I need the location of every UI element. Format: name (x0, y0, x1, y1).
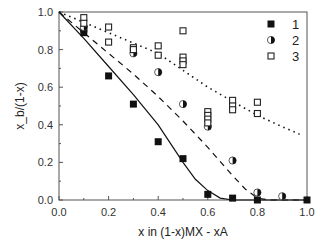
legend: 123 (267, 17, 299, 64)
marker-series-3 (130, 47, 136, 53)
marker-series-1 (180, 155, 187, 162)
marker-series-2 (155, 69, 162, 76)
marker-series-3 (106, 39, 112, 45)
marker-series-1 (229, 195, 236, 202)
scatter-chart: 0.00.20.40.60.81.00.00.20.40.60.81.0 123… (0, 0, 328, 249)
x-tick-label: 0.2 (101, 206, 116, 218)
marker-series-3 (254, 111, 260, 117)
x-tick-label: 0.8 (250, 206, 265, 218)
x-tick-label: 0.0 (51, 206, 66, 218)
legend-marker-3 (268, 53, 274, 59)
marker-series-2 (254, 189, 261, 196)
marker-series-3 (180, 28, 186, 34)
legend-marker-2 (267, 36, 274, 43)
marker-series-1 (130, 101, 137, 108)
marker-series-1 (155, 138, 162, 145)
marker-series-3 (230, 107, 236, 113)
legend-marker-1 (268, 21, 275, 28)
x-tick-label: 0.4 (151, 206, 166, 218)
y-tick-label: 0.8 (38, 44, 53, 56)
fit-line-3 (59, 12, 300, 134)
legend-label-2: 2 (292, 33, 299, 48)
marker-series-3 (106, 24, 112, 30)
marker-series-3 (180, 62, 186, 68)
y-axis-label: x_b/(1-x) (13, 82, 27, 129)
marker-series-1 (105, 72, 112, 79)
marker-series-3 (254, 99, 260, 105)
marker-series-3 (205, 120, 211, 126)
marker-series-1 (204, 191, 211, 198)
marker-series-2 (179, 101, 186, 108)
y-tick-label: 0.4 (38, 119, 53, 131)
marker-series-2 (229, 157, 236, 164)
y-tick-label: 0.2 (38, 156, 53, 168)
marker-series-3 (155, 52, 161, 58)
marker-series-3 (81, 20, 87, 26)
marker-series-3 (155, 43, 161, 49)
x-tick-label: 1.0 (299, 206, 314, 218)
marker-series-1 (304, 197, 311, 204)
y-tick-label: 1.0 (38, 6, 53, 18)
legend-label-1: 1 (292, 17, 299, 32)
legend-label-3: 3 (292, 49, 299, 64)
x-tick-label: 0.6 (200, 206, 215, 218)
y-tick-label: 0.0 (38, 194, 53, 206)
x-axis-label: x in (1-x)MX - xA (138, 225, 227, 239)
y-tick-label: 0.6 (38, 81, 53, 93)
marker-series-2 (279, 193, 286, 200)
marker-series-1 (254, 197, 261, 204)
data-markers (80, 15, 310, 204)
